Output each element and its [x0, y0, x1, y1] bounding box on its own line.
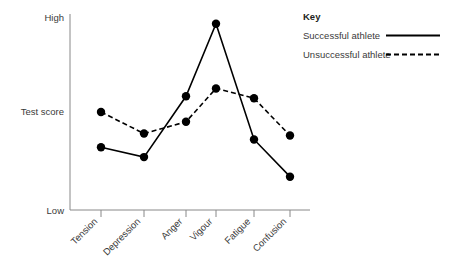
x-axis-ticks — [101, 210, 290, 217]
legend-label-unsuccessful: Unsuccessful athlete — [303, 49, 391, 60]
data-point-marker — [97, 108, 105, 116]
x-label-anger: Anger — [159, 216, 185, 242]
x-label-vigour: Vigour — [187, 216, 214, 243]
data-point-marker — [250, 94, 258, 102]
x-axis-labels: Tension Depression Anger Vigour Fatigue … — [68, 216, 288, 258]
chart-legend: Key Successful athlete Unsuccessful athl… — [303, 11, 440, 60]
legend-title: Key — [303, 11, 321, 22]
data-point-marker — [212, 84, 220, 92]
data-point-marker — [250, 135, 258, 143]
legend-label-successful: Successful athlete — [303, 30, 380, 41]
data-point-marker — [182, 118, 190, 126]
x-label-fatigue: Fatigue — [222, 216, 252, 246]
data-point-marker — [182, 92, 190, 100]
data-point-marker — [140, 129, 148, 137]
y-axis-low-label: Low — [47, 205, 65, 216]
series-line-0 — [101, 24, 290, 177]
data-point-marker — [212, 20, 220, 28]
chart-axes — [70, 14, 310, 217]
data-point-marker — [286, 131, 294, 139]
line-chart: High Test score Low Tension Depression A… — [0, 0, 463, 279]
x-label-confusion: Confusion — [250, 216, 288, 254]
y-axis-high-label: High — [44, 12, 64, 23]
data-point-marker — [140, 153, 148, 161]
x-label-depression: Depression — [101, 216, 143, 258]
chart-series-layer — [97, 20, 294, 181]
data-point-marker — [97, 143, 105, 151]
y-axis-labels: High Test score Low — [21, 12, 64, 216]
series-line-1 — [101, 88, 290, 135]
data-point-marker — [286, 172, 294, 180]
y-axis-title: Test score — [21, 106, 64, 117]
chart-container: High Test score Low Tension Depression A… — [0, 0, 463, 279]
x-label-tension: Tension — [68, 216, 99, 247]
